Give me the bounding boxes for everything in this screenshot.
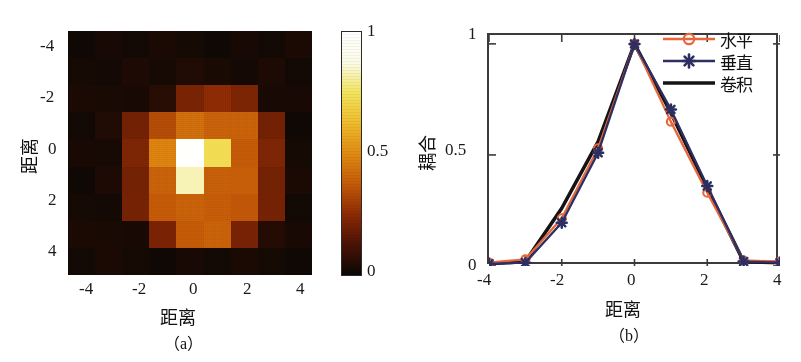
heatmap-cell [68,167,95,194]
heatmap-cell [176,167,203,194]
heatmap-cell [258,248,285,275]
legend-sample-star-icon [662,50,716,72]
lineplot-xlabel: 距离 [605,295,641,321]
heatmap-cell [68,221,95,248]
legend-item-vertical[interactable]: 垂直 [660,50,778,72]
lineplot-xtick-4: 4 [773,270,782,290]
lineplot-xtick-0: 0 [627,270,636,290]
lineplot-ytick-1: 1 [468,24,477,44]
heatmap-xtick--4: -4 [79,279,93,299]
heatmap-cell [176,31,203,58]
lineplot-marker-star [666,104,676,114]
colorbar-gradient [341,31,362,276]
figure-canvas: -4 -2 0 2 4 -4 -2 0 2 4 距离 距离 （a） 1 0.5 … [0,0,801,362]
heatmap-xtick-0: 0 [189,279,198,299]
heatmap-cell [285,139,312,166]
heatmap-cell [68,139,95,166]
heatmap-cell [95,167,122,194]
heatmap-cell [149,85,176,112]
lineplot-legend: 水平 垂直 卷积 [660,28,778,94]
heatmap-cell [285,58,312,85]
legend-item-horizontal[interactable]: 水平 [660,28,778,50]
heatmap-cell [204,139,231,166]
panel-a-heatmap: -4 -2 0 2 4 -4 -2 0 2 4 距离 距离 （a） 1 0.5 … [0,0,400,362]
lineplot-ylabel: 耦合 [413,123,439,183]
heatmap-cell [258,58,285,85]
heatmap-cell [149,248,176,275]
heatmap-cell [95,248,122,275]
panel-b-caption: （b） [609,322,649,346]
heatmap-cell [95,58,122,85]
heatmap-cell [95,31,122,58]
legend-sample-line-icon [662,72,716,94]
heatmap-ytick-4: 4 [48,241,57,261]
colorbar-tick-0: 0 [367,261,376,281]
heatmap-cell [122,58,149,85]
heatmap-cell [95,139,122,166]
heatmap-cell [122,139,149,166]
heatmap-cell [176,248,203,275]
heatmap-cell [95,85,122,112]
lineplot-marker-star [593,148,603,158]
heatmap-cell [204,248,231,275]
heatmap-xtick--2: -2 [132,279,146,299]
legend-sample-circle-icon [662,28,716,50]
heatmap-cell [285,112,312,139]
heatmap-ylabel: 距离 [15,126,41,186]
heatmap-cell [258,112,285,139]
heatmap-cell [122,248,149,275]
heatmap-cell [258,221,285,248]
heatmap-cell [122,31,149,58]
heatmap-cell [68,248,95,275]
heatmap-cell [258,85,285,112]
heatmap-cell [68,112,95,139]
heatmap-cell [149,112,176,139]
heatmap-xtick-4: 4 [296,279,305,299]
lineplot-xtick--2: -2 [550,270,564,290]
colorbar-tick-1: 1 [367,21,376,41]
heatmap-cell [285,167,312,194]
heatmap-axes [68,31,312,275]
lineplot-ytick-0-5: 0.5 [445,140,466,160]
lineplot-marker-star [775,258,780,266]
heatmap-xlabel: 距离 [160,303,196,329]
heatmap-cell [95,112,122,139]
heatmap-cell [176,85,203,112]
heatmap-cell [285,221,312,248]
heatmap-cell [231,58,258,85]
heatmap-ytick--2: -2 [40,87,54,107]
heatmap-cell [231,194,258,221]
lineplot-ytick-0: 0 [468,255,477,275]
heatmap-cell [258,139,285,166]
panel-a-caption: （a） [164,330,203,354]
heatmap-cell [122,167,149,194]
heatmap-cell [204,85,231,112]
lineplot-xtick--4: -4 [477,270,491,290]
heatmap-cell [258,167,285,194]
heatmap-cell [176,112,203,139]
lineplot-marker-star [557,218,567,228]
heatmap-cell [149,31,176,58]
colorbar-tick-0-5: 0.5 [367,141,388,161]
heatmap-cell [204,31,231,58]
heatmap-cell [68,85,95,112]
heatmap-xtick-2: 2 [243,279,252,299]
heatmap-cell [122,221,149,248]
heatmap-cell [285,194,312,221]
heatmap-cell [149,58,176,85]
colorbar: 1 0.5 0 [341,31,362,276]
heatmap-cell [204,194,231,221]
heatmap-cell [95,194,122,221]
legend-item-convolution[interactable]: 卷积 [660,72,778,94]
heatmap-cell [231,85,258,112]
lineplot-marker-star [520,258,530,266]
heatmap-cell [204,221,231,248]
heatmap-ytick-0: 0 [48,139,57,159]
heatmap-cell [176,139,203,166]
heatmap-cell [95,221,122,248]
heatmap-cell [258,194,285,221]
heatmap-cell [204,167,231,194]
legend-label-convolution: 卷积 [720,71,752,96]
heatmap-cell [176,194,203,221]
lineplot-xtick-2: 2 [700,270,709,290]
